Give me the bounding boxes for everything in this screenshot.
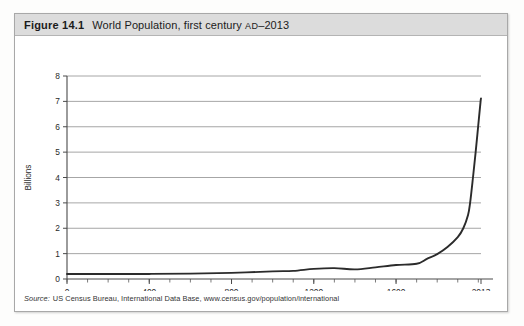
figure-title-tail: –2013 — [258, 19, 289, 31]
x-tick-label: 1600 — [387, 287, 406, 291]
y-tick-label: 1 — [55, 249, 60, 259]
figure-title-era: AD — [245, 21, 258, 31]
source-text: US Census Bureau, International Data Bas… — [53, 294, 339, 303]
x-tick-label: 2013 — [472, 287, 491, 291]
y-tick-label: 8 — [55, 71, 60, 81]
x-tick-label: 400 — [142, 287, 156, 291]
x-tick-label: 800 — [225, 287, 239, 291]
y-tick-label: 3 — [55, 198, 60, 208]
x-tick-label: 0 — [65, 287, 70, 291]
figure-number: Figure 14.1 — [24, 19, 84, 31]
y-tick-label: 5 — [55, 147, 60, 157]
figure-title-band: Figure 14.1 World Population, first cent… — [15, 14, 507, 36]
y-tick-label: 2 — [55, 223, 60, 233]
x-axis-tick-labels: 0400800120016002013 — [65, 287, 491, 291]
population-line-chart: 012345678 0400800120016002013 Billions — [15, 36, 509, 291]
source-label: Source: — [24, 294, 50, 303]
y-axis-title: Billions — [24, 165, 33, 191]
population-curve — [67, 99, 481, 274]
chart-plot-area: 012345678 0400800120016002013 Billions — [15, 36, 509, 291]
gridlines — [67, 76, 481, 254]
x-axis-major-ticks — [67, 279, 481, 284]
y-tick-label: 7 — [55, 96, 60, 106]
figure-title: World Population, first century AD–2013 — [92, 19, 289, 31]
page-background: Figure 14.1 World Population, first cent… — [0, 0, 524, 326]
source-note: Source:US Census Bureau, International D… — [24, 294, 339, 303]
x-tick-label: 1200 — [304, 287, 323, 291]
y-axis-ticks — [63, 76, 67, 279]
figure-box: Figure 14.1 World Population, first cent… — [14, 13, 508, 312]
y-tick-label: 4 — [55, 173, 60, 183]
y-axis-tick-labels: 012345678 — [55, 71, 60, 284]
figure-title-main: World Population, first century — [92, 19, 245, 31]
y-tick-label: 6 — [55, 122, 60, 132]
y-tick-label: 0 — [55, 274, 60, 284]
